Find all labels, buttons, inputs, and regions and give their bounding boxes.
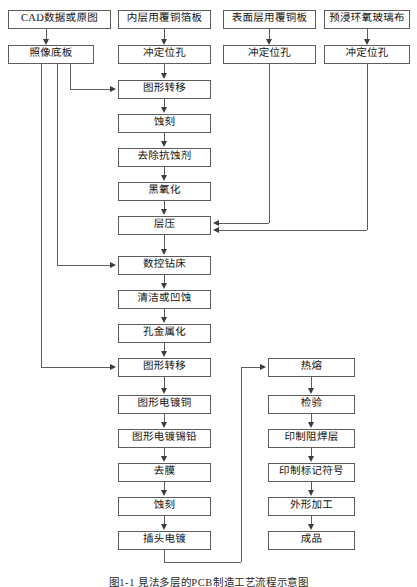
node-label: 热熔 bbox=[301, 362, 323, 373]
node-etch-1: 蚀刻 bbox=[118, 114, 211, 133]
node-label: 去膜 bbox=[154, 467, 176, 478]
node-label: CAD数据或原图 bbox=[21, 14, 98, 25]
connector-lamination-to-drill bbox=[164, 235, 165, 250]
node-label: 印制阻焊层 bbox=[285, 433, 339, 444]
node-label: 孔金属化 bbox=[143, 328, 186, 339]
arrowhead-pt2-to-platecu bbox=[161, 388, 167, 394]
node-label: 外形加工 bbox=[290, 501, 333, 512]
node-label: 层压 bbox=[154, 220, 176, 231]
node-label: 检验 bbox=[301, 399, 323, 410]
node-plate-tin-lead: 图形电镀锡铅 bbox=[118, 429, 211, 448]
node-label: 冲定位孔 bbox=[248, 49, 291, 60]
connector-photobase-branch-c-down bbox=[41, 64, 42, 367]
arrowhead-stripfilm-to-etch2 bbox=[161, 490, 167, 496]
node-label: 清洁或凹蚀 bbox=[138, 294, 192, 305]
connector-punchprepreg-to-lamination-down bbox=[367, 64, 368, 230]
node-pattern-transfer-2: 图形转移 bbox=[118, 358, 211, 377]
node-strip-film: 去膜 bbox=[118, 463, 211, 482]
connector-edgeplating-to-reflow-up bbox=[241, 367, 242, 562]
node-label: 图形转移 bbox=[143, 362, 186, 373]
node-pattern-transfer-1: 图形转移 bbox=[118, 80, 211, 99]
node-cnc-drill: 数控钻床 bbox=[118, 256, 211, 275]
connector-punchsurface-to-lamination-down bbox=[269, 64, 270, 223]
connector-photobase-branch-a-right bbox=[70, 89, 110, 90]
arrowhead-platesn-to-stripfilm bbox=[161, 456, 167, 462]
arrowhead-photobase-to-pt2 bbox=[110, 364, 116, 370]
node-label: 插头电镀 bbox=[143, 535, 186, 546]
arrowhead-punchprepreg-to-lamination bbox=[213, 227, 219, 233]
arrowhead-photobase-to-drill bbox=[110, 262, 116, 268]
arrowhead-profiling-to-finished bbox=[308, 524, 314, 530]
node-plate-copper: 图形电镀铜 bbox=[118, 395, 211, 414]
node-label: 印制标记符号 bbox=[279, 467, 344, 478]
node-strip-resist: 去除抗蚀剂 bbox=[118, 148, 211, 167]
node-label: 图形电镀锡铅 bbox=[132, 433, 197, 444]
node-inspect: 检验 bbox=[268, 395, 355, 414]
node-label: 数控钻床 bbox=[143, 260, 186, 271]
node-label: 照像底板 bbox=[29, 49, 72, 60]
node-etch-2: 蚀刻 bbox=[118, 497, 211, 516]
node-label: 图形转移 bbox=[143, 84, 186, 95]
node-clean-etchback: 清洁或凹蚀 bbox=[118, 290, 211, 309]
node-label: 冲定位孔 bbox=[345, 49, 388, 60]
node-prepreg: 预浸环氧玻璃布 bbox=[324, 10, 410, 29]
connector-photobase-branch-a-down bbox=[70, 64, 71, 89]
arrowhead-metallize-to-pt2 bbox=[161, 351, 167, 357]
arrowhead-platecu-to-platesn bbox=[161, 422, 167, 428]
connector-edgeplating-to-reflow-right bbox=[164, 562, 241, 563]
node-photo-base: 照像底板 bbox=[8, 45, 94, 64]
node-label: 图形电镀铜 bbox=[138, 399, 192, 410]
connector-edgeplating-to-reflow-down bbox=[164, 550, 165, 562]
node-hole-metallize: 孔金属化 bbox=[118, 324, 211, 343]
connector-photobase-branch-b-right bbox=[57, 265, 110, 266]
node-label: 表面层用覆铜板 bbox=[232, 14, 308, 25]
figure-caption: 图1-1 見法多层的PCB制造工艺流程示意图 bbox=[0, 574, 417, 587]
node-black-oxide: 黑氧化 bbox=[118, 182, 211, 201]
arrowhead-photobase-to-pt1 bbox=[110, 86, 116, 92]
connector-photobase-branch-c-right bbox=[41, 367, 110, 368]
node-label: 去除抗蚀剂 bbox=[138, 152, 192, 163]
arrowhead-clean-to-metallize bbox=[161, 317, 167, 323]
node-inner-ccl: 内层用覆铜箔板 bbox=[118, 10, 211, 29]
node-finished: 成品 bbox=[268, 531, 355, 550]
arrowhead-legend-to-profiling bbox=[308, 490, 314, 496]
node-reflow: 热熔 bbox=[268, 358, 355, 377]
pcb-process-flowchart: CAD数据或原图 内层用覆铜箔板 表面层用覆铜板 预浸环氧玻璃布 照像底板 冲定… bbox=[0, 0, 417, 587]
node-label: 预浸环氧玻璃布 bbox=[329, 14, 405, 25]
node-lamination: 层压 bbox=[118, 216, 211, 235]
arrowhead-pt1-to-etch1 bbox=[161, 107, 167, 113]
node-solder-mask: 印制阻焊层 bbox=[268, 429, 355, 448]
node-surface-ccl: 表面层用覆铜板 bbox=[223, 10, 316, 29]
arrowhead-strip-to-oxide bbox=[161, 175, 167, 181]
node-label: 蚀刻 bbox=[154, 118, 176, 129]
node-cad: CAD数据或原图 bbox=[8, 10, 111, 29]
node-punch-surface: 冲定位孔 bbox=[223, 45, 316, 64]
arrowhead-lamination-to-drill bbox=[161, 249, 167, 255]
node-punch-inner: 冲定位孔 bbox=[118, 45, 211, 64]
arrowhead-punchsurface-to-lamination bbox=[213, 220, 219, 226]
connector-photobase-branch-b-down bbox=[57, 64, 58, 265]
arrowhead-edgeplating-to-reflow bbox=[260, 364, 266, 370]
arrowhead-soldermask-to-legend bbox=[308, 456, 314, 462]
node-label: 黑氧化 bbox=[148, 186, 180, 197]
arrowhead-reflow-to-inspect bbox=[308, 388, 314, 394]
arrowhead-oxide-to-lamination bbox=[161, 209, 167, 215]
arrowhead-punchinner-to-pt1 bbox=[161, 73, 167, 79]
arrowhead-etch1-to-strip bbox=[161, 141, 167, 147]
connector-edgeplating-to-reflow-into bbox=[241, 367, 260, 368]
connector-punchsurface-to-lamination-left bbox=[219, 223, 269, 224]
arrowhead-etch2-to-edgeplating bbox=[161, 524, 167, 530]
node-edge-plating: 插头电镀 bbox=[118, 531, 211, 550]
node-label: 内层用覆铜箔板 bbox=[127, 14, 203, 25]
node-profiling: 外形加工 bbox=[268, 497, 355, 516]
node-label: 成品 bbox=[301, 535, 323, 546]
node-legend-print: 印制标记符号 bbox=[268, 463, 355, 482]
node-punch-prepreg: 冲定位孔 bbox=[324, 45, 410, 64]
arrowhead-inspect-to-soldermask bbox=[308, 422, 314, 428]
node-label: 冲定位孔 bbox=[143, 49, 186, 60]
arrowhead-drill-to-clean bbox=[161, 283, 167, 289]
connector-punchprepreg-to-lamination-left bbox=[219, 230, 367, 231]
node-label: 蚀刻 bbox=[154, 501, 176, 512]
